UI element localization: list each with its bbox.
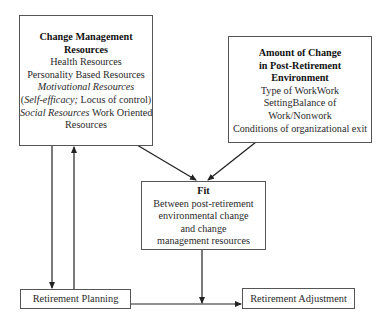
fit-item-4: management resources	[142, 235, 265, 248]
change-item-2: SettingBalance of	[229, 97, 371, 110]
fit-item-3: and change	[142, 223, 265, 236]
change-item-3: Work/Nonwork	[229, 110, 371, 123]
retirement-planning-label: Retirement Planning	[33, 293, 119, 304]
change-title-line-1: Amount of Change	[229, 47, 371, 60]
locus-of-control: Locus of control)	[78, 94, 151, 105]
retirement-planning-box: Retirement Planning	[20, 289, 131, 309]
retirement-adjustment-box: Retirement Adjustment	[242, 288, 355, 309]
fit-item-1: Between post-retirement	[142, 198, 265, 211]
amount-of-change-box: Amount of Change in Post-Retirement Envi…	[228, 36, 372, 143]
self-efficacy: Self-efficacy;	[24, 94, 78, 105]
change-item-1: Type of WorkWork	[229, 85, 371, 98]
social-resources: Social Resources	[20, 107, 90, 118]
change-item-4: Conditions of organizational exit	[229, 123, 371, 136]
arrow-change-to-fit	[208, 142, 256, 180]
fit-box: Fit Between post-retirement environmenta…	[141, 181, 266, 250]
change-title-line-2: in Post-Retirement	[229, 60, 371, 73]
resources-title-line-1: Change Management	[20, 31, 152, 44]
fit-item-2: environmental change	[142, 210, 265, 223]
fit-title: Fit	[142, 185, 265, 198]
retirement-adjustment-label: Retirement Adjustment	[250, 293, 347, 304]
motivational-resources: Motivational Resources	[20, 81, 152, 94]
work-oriented-2: Resources	[20, 119, 152, 132]
arrow-resources-to-fit	[137, 145, 196, 180]
change-title-line-3: Environment	[229, 72, 371, 85]
social-work-resources: Social Resources Work Oriented	[20, 107, 152, 120]
personality-resources: Personality Based Resources	[20, 69, 152, 82]
motivational-detail: (Self-efficacy; Locus of control)	[20, 94, 152, 107]
work-oriented-1: Work Oriented	[90, 107, 153, 118]
change-management-resources-box: Change Management Resources Health Resou…	[19, 15, 153, 146]
resources-title-line-2: Resources	[20, 44, 152, 57]
health-resources: Health Resources	[20, 56, 152, 69]
